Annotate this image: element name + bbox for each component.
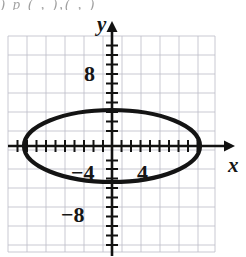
coordinate-plane-svg: y x −4 4 8 −8 [0, 0, 246, 257]
x-axis-label: x [227, 153, 239, 177]
graph-figure: y x −4 4 8 −8 [0, 0, 246, 257]
x-axis-right-arrow-icon [224, 141, 235, 152]
x-tick-label-neg4: −4 [71, 160, 95, 185]
y-axis-up-arrow-icon [107, 21, 118, 32]
y-tick-label-neg8: −8 [61, 202, 85, 227]
y-axis-label: y [94, 12, 107, 36]
y-tick-label-pos8: 8 [84, 61, 95, 86]
x-tick-label-pos4: 4 [137, 160, 148, 185]
